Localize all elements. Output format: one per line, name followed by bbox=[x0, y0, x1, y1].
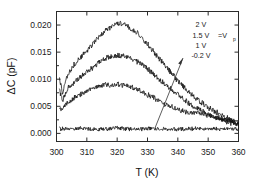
legend-vp-subscript: p bbox=[233, 36, 236, 42]
y-axis-title: ΔC (pF) bbox=[5, 58, 17, 95]
y-tick-label-0010: 0.010 bbox=[30, 74, 52, 84]
legend-entry-minus02v: -0.2 V bbox=[191, 51, 210, 60]
legend-entry-15v: 1.5 V bbox=[193, 31, 210, 40]
x-tick-label-320: 320 bbox=[110, 147, 124, 157]
y-tick-label-0005: 0.005 bbox=[30, 101, 52, 111]
y-tick-label-0015: 0.015 bbox=[30, 47, 52, 57]
x-tick-label-360: 360 bbox=[231, 147, 245, 157]
x-tick-label-300: 300 bbox=[49, 147, 63, 157]
x-tick-label-330: 330 bbox=[140, 147, 154, 157]
figure-container: 300 310 320 330 340 350 360 0.000 0.005 … bbox=[0, 0, 257, 184]
x-axis-title: T (K) bbox=[135, 166, 158, 178]
legend-equals-vp-label: =V bbox=[218, 31, 227, 40]
y-tick-label-0000: 0.000 bbox=[30, 128, 52, 138]
x-tick-label-340: 340 bbox=[171, 147, 185, 157]
capacitance-vs-temperature-chart: 300 310 320 330 340 350 360 0.000 0.005 … bbox=[0, 0, 257, 184]
legend-entry-2v: 2 V bbox=[196, 20, 207, 29]
x-tick-label-350: 350 bbox=[201, 147, 215, 157]
legend-entry-1v: 1 V bbox=[196, 41, 207, 50]
y-tick-label-0020: 0.020 bbox=[30, 20, 52, 30]
x-tick-label-310: 310 bbox=[80, 147, 94, 157]
